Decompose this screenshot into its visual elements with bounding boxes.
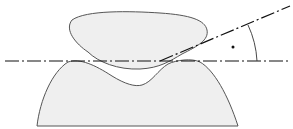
contact-diagram <box>0 0 293 129</box>
lower-body <box>37 60 238 126</box>
angle-arc <box>248 25 257 61</box>
angle-marker-dot <box>232 46 235 49</box>
